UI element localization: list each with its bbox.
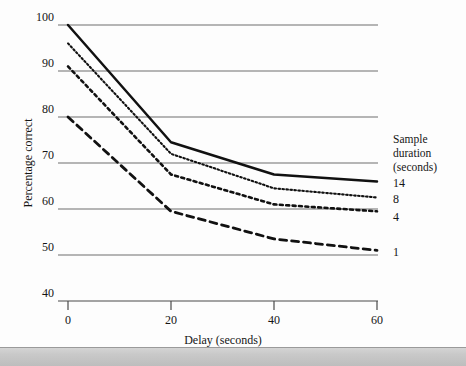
y-tick-label-50: 50 xyxy=(42,240,54,254)
y-tick-label-90: 90 xyxy=(42,56,54,70)
series-line-4 xyxy=(68,66,377,211)
y-tick-label-100: 100 xyxy=(36,10,54,24)
x-tick-label-0: 0 xyxy=(65,313,71,327)
series-line-1 xyxy=(68,117,377,250)
legend-title-line-2: duration xyxy=(393,147,432,159)
y-tick-label-70: 70 xyxy=(42,148,54,162)
x-axis-title: Delay (seconds) xyxy=(184,333,262,347)
chart-figure: 100 90 80 70 60 50 40 0 20 40 60 Delay (… xyxy=(0,0,466,347)
x-tick-label-60: 60 xyxy=(371,313,383,327)
data-series-group xyxy=(68,25,377,250)
series-line-8 xyxy=(68,43,377,197)
legend-title-line-1: Sample xyxy=(393,133,428,146)
y-tick-label-60: 60 xyxy=(42,194,54,208)
x-tick-label-40: 40 xyxy=(268,313,280,327)
legend-label-8: 8 xyxy=(393,192,399,206)
line-chart: 100 90 80 70 60 50 40 0 20 40 60 Delay (… xyxy=(0,0,466,347)
x-axis-labels: 0 20 40 60 xyxy=(65,313,383,327)
x-tick-label-20: 20 xyxy=(165,313,177,327)
y-axis-title: Percentage correct xyxy=(21,118,35,208)
taskbar xyxy=(0,347,466,366)
y-axis-labels: 100 90 80 70 60 50 40 xyxy=(36,10,54,300)
legend-label-14: 14 xyxy=(393,176,405,190)
x-axis-ticks xyxy=(68,301,377,310)
legend-title-line-3: (seconds) xyxy=(393,161,437,174)
y-tick-label-40: 40 xyxy=(42,286,54,300)
y-tick-label-80: 80 xyxy=(42,102,54,116)
legend-label-4: 4 xyxy=(393,210,399,224)
legend-label-1: 1 xyxy=(393,245,399,259)
legend: Sample duration (seconds) 14 8 4 1 xyxy=(393,133,437,259)
